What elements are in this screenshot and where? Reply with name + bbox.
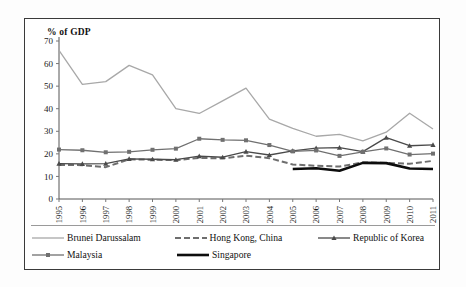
- x-tick-label: 2007: [335, 205, 345, 223]
- x-tick-label: 1995: [54, 206, 64, 223]
- legend-item-singapore[interactable]: Singapore: [176, 249, 322, 261]
- chart-legend: Brunei Darussalam Hong Kong, China Repub…: [25, 225, 441, 269]
- data-point-marker: [408, 153, 412, 157]
- y-tick-label: 50: [44, 81, 54, 91]
- data-point-marker: [314, 148, 318, 152]
- data-point-marker: [197, 137, 201, 141]
- legend-swatch-malaysia: [31, 249, 65, 261]
- data-point-marker: [267, 143, 271, 147]
- y-tick-label: 40: [44, 104, 54, 114]
- legend-label-brunei-darussalam: Brunei Darussalam: [66, 232, 141, 243]
- legend-swatch-hong-kong-china: [174, 232, 208, 244]
- data-point-marker: [57, 148, 61, 152]
- series-line-brunei-darussalam: [59, 50, 433, 140]
- legend-item-brunei-darussalam[interactable]: Brunei Darussalam: [31, 232, 174, 244]
- legend-item-republic-of-korea[interactable]: Republic of Korea: [317, 232, 435, 244]
- figure-frame: % of GDP 0102030405060701995199619971998…: [24, 18, 440, 270]
- legend-row-1: Brunei Darussalam Hong Kong, China Repub…: [31, 229, 435, 246]
- legend-label-republic-of-korea: Republic of Korea: [352, 232, 424, 243]
- y-tick-label: 70: [44, 36, 54, 46]
- legend-item-malaysia[interactable]: Malaysia: [31, 249, 176, 261]
- data-point-marker: [384, 146, 388, 150]
- x-tick-label: 1996: [78, 205, 88, 223]
- data-point-marker: [221, 138, 225, 142]
- y-tick-label: 0: [49, 194, 54, 204]
- legend-swatch-republic-of-korea: [317, 232, 351, 244]
- legend-divider: [31, 225, 435, 226]
- data-point-marker: [431, 152, 435, 156]
- x-tick-label: 2000: [171, 206, 181, 223]
- legend-swatch-singapore: [176, 249, 210, 261]
- data-point-marker: [244, 138, 248, 142]
- data-point-marker: [80, 148, 84, 152]
- x-tick-label: 2001: [195, 206, 205, 223]
- legend-label-malaysia: Malaysia: [66, 249, 102, 260]
- x-tick-label: 2006: [311, 205, 321, 223]
- x-tick-label: 1997: [101, 205, 111, 223]
- data-point-marker: [361, 150, 365, 154]
- y-tick-label: 60: [44, 59, 54, 69]
- data-point-marker: [291, 149, 295, 153]
- data-point-marker: [174, 147, 178, 151]
- x-tick-label: 2005: [288, 206, 298, 223]
- legend-row-2: Malaysia Singapore: [31, 246, 435, 263]
- legend-label-singapore: Singapore: [211, 249, 251, 260]
- y-tick-label: 30: [44, 126, 54, 136]
- legend-swatch-brunei-darussalam: [31, 232, 65, 244]
- legend-item-hong-kong-china[interactable]: Hong Kong, China: [174, 232, 318, 244]
- x-tick-label: 2002: [218, 206, 228, 223]
- x-tick-label: 2008: [358, 206, 368, 223]
- data-point-marker: [127, 150, 131, 154]
- x-tick-label: 2010: [405, 206, 415, 223]
- data-point-marker: [104, 150, 108, 154]
- x-tick-label: 2004: [265, 205, 275, 223]
- x-tick-label: 2003: [241, 206, 251, 223]
- x-tick-label: 2011: [428, 206, 438, 223]
- x-tick-label: 1999: [148, 206, 158, 223]
- y-tick-label: 20: [44, 149, 54, 159]
- y-tick-label: 10: [44, 172, 54, 182]
- x-tick-label: 2009: [382, 206, 392, 223]
- data-point-marker: [151, 148, 155, 152]
- x-tick-label: 1998: [124, 206, 134, 223]
- data-point-marker: [338, 154, 342, 158]
- data-point-marker: [384, 135, 389, 140]
- legend-label-hong-kong-china: Hong Kong, China: [209, 232, 283, 243]
